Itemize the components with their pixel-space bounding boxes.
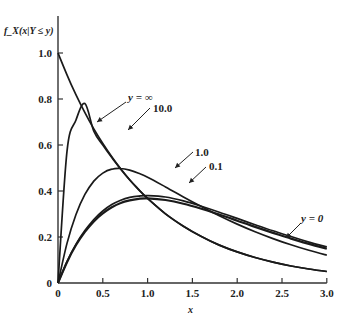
- x-tick-label: 0.5: [96, 287, 110, 299]
- x-tick-label: 1.0: [141, 287, 155, 299]
- curve-y-: [58, 53, 327, 272]
- curve-label: 0.1: [209, 160, 223, 172]
- x-tick-label: 0: [55, 287, 61, 299]
- y-tick-label: 0: [47, 277, 53, 289]
- y-tick-label: 0.4: [38, 185, 52, 197]
- curve-10.0: [58, 103, 327, 283]
- annotations: y = ∞10.01.00.1y = 0: [97, 91, 324, 238]
- y-tick-label: 0.6: [38, 139, 52, 151]
- y-tick-label: 0.2: [38, 231, 52, 243]
- y-axis-label: f_X(x|Y ≤ y): [4, 25, 54, 37]
- curves: [58, 53, 327, 283]
- x-axis-label: x: [187, 304, 193, 315]
- curve-0.1: [58, 196, 327, 283]
- x-tick-label: 3.0: [320, 287, 334, 299]
- x-tick-label: 2.0: [230, 287, 244, 299]
- conditional-density-chart: 00.51.01.52.02.53.000.20.40.60.81.0 y = …: [0, 0, 344, 324]
- curve-label: y = ∞: [126, 91, 153, 103]
- y-tick-label: 1.0: [38, 47, 52, 59]
- annotation-arrow: [97, 102, 126, 122]
- curve-label: y = 0: [299, 212, 324, 224]
- y-tick-label: 0.8: [38, 93, 52, 105]
- curve-y-0: [58, 198, 327, 283]
- x-tick-label: 1.5: [186, 287, 200, 299]
- curve-label: 1.0: [195, 146, 209, 158]
- x-tick-label: 2.5: [275, 287, 289, 299]
- curve-label: 10.0: [153, 102, 173, 114]
- arrowhead-icon: [97, 117, 103, 122]
